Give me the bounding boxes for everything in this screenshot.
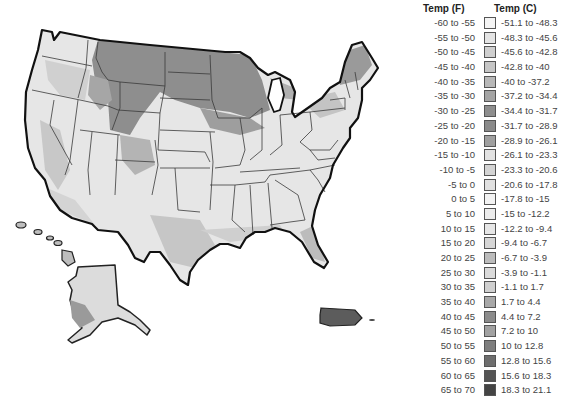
contiguous-us (25, 30, 378, 285)
legend-celsius-range: -31.7 to -28.9 (501, 120, 558, 131)
legend-fahrenheit-range: 0 to 5 (451, 193, 475, 204)
legend-row: 35 to 40 1.7 to 4.4 (418, 295, 563, 310)
legend-color-swatch (484, 149, 496, 161)
legend-fahrenheit-range: -40 to -35 (434, 76, 475, 87)
legend-fahrenheit-range: -55 to -50 (434, 32, 475, 43)
legend-celsius-range: 4.4 to 7.2 (501, 311, 541, 322)
legend-fahrenheit-range: 50 to 55 (441, 340, 475, 351)
legend-fahrenheit-range: 5 to 10 (446, 208, 475, 219)
legend-row: 25 to 30 -3.9 to -1.1 (418, 266, 563, 281)
legend-color-swatch (484, 252, 496, 264)
temperature-legend: Temp (F) Temp (C) -60 to -55 -51.1 to -4… (418, 2, 563, 398)
legend-color-swatch (484, 208, 496, 220)
legend-fahrenheit-range: 10 to 15 (441, 223, 475, 234)
legend-row: -10 to -5 -23.3 to -20.6 (418, 163, 563, 178)
legend-color-swatch (484, 179, 496, 191)
legend-row: -40 to -35 -40 to -37.2 (418, 75, 563, 90)
legend-celsius-range: -26.1 to -23.3 (501, 149, 558, 160)
legend-color-swatch (484, 164, 496, 176)
legend-row: -15 to -10 -26.1 to -23.3 (418, 148, 563, 163)
legend-fahrenheit-range: -35 to -30 (434, 90, 475, 101)
legend-row: 5 to 10 -15 to -12.2 (418, 207, 563, 222)
legend-fahrenheit-range: 60 to 65 (441, 370, 475, 381)
legend-fahrenheit-range: 40 to 45 (441, 311, 475, 322)
legend-fahrenheit-range: 30 to 35 (441, 281, 475, 292)
legend-color-swatch (484, 384, 496, 396)
legend-row: 60 to 65 15.6 to 18.3 (418, 369, 563, 384)
legend-fahrenheit-range: -20 to -15 (434, 135, 475, 146)
legend-color-swatch (484, 267, 496, 279)
legend-fahrenheit-range: 55 to 60 (441, 355, 475, 366)
legend-color-swatch (484, 311, 496, 323)
legend-row: -25 to -20 -31.7 to -28.9 (418, 119, 563, 134)
legend-row: -20 to -15 -28.9 to -26.1 (418, 134, 563, 149)
legend-row: 45 to 50 7.2 to 10 (418, 324, 563, 339)
legend-celsius-range: -28.9 to -26.1 (501, 135, 558, 146)
legend-celsius-range: -48.3 to -45.6 (501, 32, 558, 43)
legend-header: Temp (F) Temp (C) (418, 2, 563, 16)
legend-celsius-range: -6.7 to -3.9 (501, 252, 547, 263)
legend-fahrenheit-range: 20 to 25 (441, 252, 475, 263)
legend-celsius-range: 7.2 to 10 (501, 325, 538, 336)
legend-celsius-range: -15 to -12.2 (501, 208, 550, 219)
legend-fahrenheit-range: -50 to -45 (434, 46, 475, 57)
legend-fahrenheit-range: 25 to 30 (441, 267, 475, 278)
legend-row: -5 to 0 -20.6 to -17.8 (418, 178, 563, 193)
legend-color-swatch (484, 281, 496, 293)
legend-row: -30 to -25 -34.4 to -31.7 (418, 104, 563, 119)
legend-celsius-range: -45.6 to -42.8 (501, 46, 558, 57)
legend-fahrenheit-range: -5 to 0 (448, 179, 475, 190)
legend-color-swatch (484, 237, 496, 249)
legend-color-swatch (484, 17, 496, 29)
legend-fahrenheit-range: -15 to -10 (434, 149, 475, 160)
legend-celsius-range: -42.8 to -40 (501, 61, 550, 72)
legend-color-swatch (484, 76, 496, 88)
legend-color-swatch (484, 32, 496, 44)
legend-header-fahrenheit: Temp (F) (423, 3, 464, 14)
legend-color-swatch (484, 223, 496, 235)
legend-fahrenheit-range: 45 to 50 (441, 325, 475, 336)
legend-row: 30 to 35 -1.1 to 1.7 (418, 280, 563, 295)
legend-celsius-range: 18.3 to 21.1 (501, 384, 551, 395)
legend-row: 15 to 20 -9.4 to -6.7 (418, 236, 563, 251)
legend-row: -55 to -50 -48.3 to -45.6 (418, 31, 563, 46)
legend-color-swatch (484, 61, 496, 73)
legend-color-swatch (484, 120, 496, 132)
legend-color-swatch (484, 296, 496, 308)
legend-row: 55 to 60 12.8 to 15.6 (418, 354, 563, 369)
legend-header-celsius: Temp (C) (494, 3, 537, 14)
legend-celsius-range: -9.4 to -6.7 (501, 237, 547, 248)
legend-fahrenheit-range: -60 to -55 (434, 17, 475, 28)
legend-celsius-range: -23.3 to -20.6 (501, 164, 558, 175)
legend-row: 10 to 15 -12.2 to -9.4 (418, 222, 563, 237)
legend-row: 65 to 70 18.3 to 21.1 (418, 383, 563, 398)
legend-color-swatch (484, 340, 496, 352)
legend-celsius-range: -17.8 to -15 (501, 193, 550, 204)
legend-row: 40 to 45 4.4 to 7.2 (418, 310, 563, 325)
legend-fahrenheit-range: -25 to -20 (434, 120, 475, 131)
legend-row: 50 to 55 10 to 12.8 (418, 339, 563, 354)
legend-celsius-range: 12.8 to 15.6 (501, 355, 551, 366)
legend-fahrenheit-range: 35 to 40 (441, 296, 475, 307)
legend-color-swatch (484, 135, 496, 147)
legend-celsius-range: -3.9 to -1.1 (501, 267, 547, 278)
hawaii (16, 222, 75, 266)
legend-fahrenheit-range: 15 to 20 (441, 237, 475, 248)
legend-celsius-range: -34.4 to -31.7 (501, 105, 558, 116)
legend-row: -50 to -45 -45.6 to -42.8 (418, 45, 563, 60)
legend-color-swatch (484, 355, 496, 367)
legend-celsius-range: 10 to 12.8 (501, 340, 543, 351)
legend-celsius-range: -20.6 to -17.8 (501, 179, 558, 190)
legend-color-swatch (484, 90, 496, 102)
legend-row: -35 to -30 -37.2 to -34.4 (418, 89, 563, 104)
alaska (68, 265, 150, 343)
legend-celsius-range: 15.6 to 18.3 (501, 370, 551, 381)
legend-row: -45 to -40 -42.8 to -40 (418, 60, 563, 75)
legend-celsius-range: -51.1 to -48.3 (501, 17, 558, 28)
legend-celsius-range: -12.2 to -9.4 (501, 223, 552, 234)
legend-fahrenheit-range: -45 to -40 (434, 61, 475, 72)
legend-color-swatch (484, 46, 496, 58)
legend-celsius-range: -37.2 to -34.4 (501, 90, 558, 101)
legend-rows: -60 to -55 -51.1 to -48.3 -55 to -50 -48… (418, 16, 563, 398)
puerto-rico (320, 308, 375, 326)
